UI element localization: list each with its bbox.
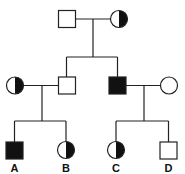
- label-d: D: [165, 162, 173, 174]
- pedigree-chart: A B C D: [0, 0, 185, 174]
- male-unaffected-d: [160, 142, 177, 159]
- female-unaffected-ii4: [161, 77, 178, 94]
- label-a: A: [11, 162, 19, 174]
- label-b: B: [62, 162, 70, 174]
- female-carrier-ii1: [7, 77, 24, 94]
- female-carrier-i2: [111, 11, 128, 28]
- female-carrier-c: [108, 142, 125, 159]
- male-affected-ii3: [109, 77, 126, 94]
- male-unaffected-i1: [59, 11, 76, 28]
- female-carrier-b: [58, 142, 75, 159]
- male-affected-a: [6, 142, 23, 159]
- male-unaffected-ii2: [59, 77, 76, 94]
- label-c: C: [112, 162, 120, 174]
